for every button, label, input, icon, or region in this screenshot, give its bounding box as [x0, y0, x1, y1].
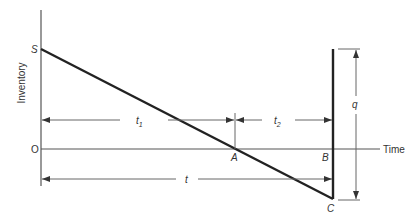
q-label: q — [352, 99, 358, 110]
t1-label: t1 — [136, 115, 143, 128]
time-axis-label: Time — [383, 144, 405, 155]
y-axis-label: Inventory — [16, 62, 27, 103]
point-a-label: A — [230, 152, 238, 163]
point-b-label: B — [322, 152, 329, 163]
inventory-diagram: Inventory Time O S A B C t1 t2 t q — [0, 0, 420, 222]
point-c-label: C — [327, 203, 335, 214]
point-s-label: S — [31, 44, 38, 55]
t-label: t — [185, 174, 189, 185]
origin-label: O — [31, 144, 39, 155]
t2-label: t2 — [274, 115, 281, 128]
